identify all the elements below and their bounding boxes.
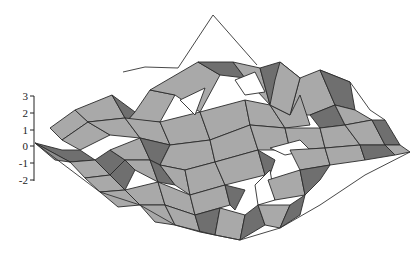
z-axis: 3 2 1 0 -1 -2 (19, 90, 34, 186)
z-tick-label: 3 (23, 90, 29, 102)
surface-mesh (35, 15, 410, 240)
z-tick-label: -2 (19, 174, 28, 186)
z-tick-label: 2 (23, 107, 29, 119)
back-edge-wire (123, 67, 178, 72)
z-tick-label: -1 (19, 157, 28, 169)
z-tick-label: 1 (23, 124, 29, 136)
z-tick-label: 0 (23, 140, 29, 152)
surface-plot: 3 2 1 0 -1 -2 (0, 0, 418, 263)
spike-wireframe (178, 15, 257, 68)
